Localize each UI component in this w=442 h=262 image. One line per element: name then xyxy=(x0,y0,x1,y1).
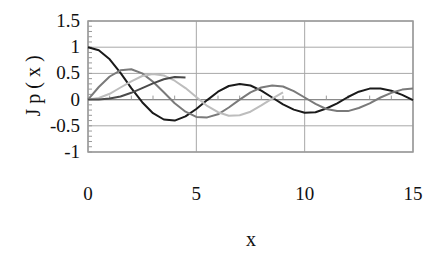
y-tick-label: 0.5 xyxy=(56,62,80,83)
series-j2-line xyxy=(88,74,283,116)
y-minor-ticks xyxy=(88,21,391,152)
x-tick-label: 0 xyxy=(83,183,93,204)
series-j1-line xyxy=(88,69,413,117)
data-series xyxy=(88,47,413,120)
x-tick-label: 15 xyxy=(404,183,423,204)
x-tick-label: 10 xyxy=(295,183,314,204)
x-tick-labels: 051015 xyxy=(83,183,422,204)
y-tick-label: -1 xyxy=(64,141,80,162)
x-tick-label: 5 xyxy=(192,183,202,204)
bessel-line-chart: 1.510.50-0.5-1 051015 x J p ( x ) xyxy=(0,0,442,262)
y-tick-label: 0 xyxy=(71,89,81,110)
series-j0-line xyxy=(88,47,413,120)
x-axis-title: x xyxy=(246,228,256,250)
y-tick-label: 1 xyxy=(71,36,81,57)
y-axis-title: J p ( x ) xyxy=(22,55,45,116)
y-tick-label: 1.5 xyxy=(56,10,80,31)
y-tick-labels: 1.510.50-0.5-1 xyxy=(50,10,80,162)
y-tick-label: -0.5 xyxy=(50,115,80,136)
